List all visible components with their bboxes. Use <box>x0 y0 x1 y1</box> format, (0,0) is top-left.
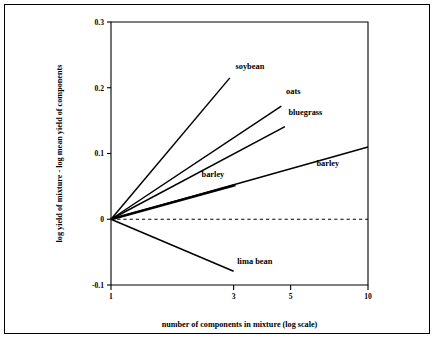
series-line-barley-long <box>111 147 368 219</box>
y-tick-label-1: 0 <box>100 215 104 224</box>
series-label-lima-bean: lima bean <box>237 257 272 266</box>
series-line-lima-bean <box>111 219 234 271</box>
series-label-soybean: soybean <box>235 62 264 71</box>
y-tick-label-2: 0.1 <box>95 149 105 158</box>
figure-container: -0.100.10.20.313510soybeanoatsbluegrassb… <box>0 0 434 338</box>
series-line-oats <box>111 106 281 219</box>
y-axis-title: log yield of mixture - log mean yield of… <box>55 65 64 243</box>
x-axis-title: number of components in mixture (log sca… <box>162 320 318 329</box>
series-line-bluegrass <box>111 127 285 220</box>
series-line-soybean <box>111 78 230 219</box>
y-tick-label-4: 0.3 <box>95 18 105 27</box>
series-label-barley-short: barley <box>202 170 226 179</box>
x-tick-label-0: 1 <box>109 292 113 301</box>
x-tick-label-1: 3 <box>232 292 236 301</box>
series-label-bluegrass: bluegrass <box>288 108 323 117</box>
x-tick-label-3: 10 <box>364 292 372 301</box>
series-label-oats: oats <box>286 87 301 96</box>
series-label-barley-long: barley <box>316 159 340 168</box>
y-tick-label-3: 0.2 <box>95 84 105 93</box>
x-tick-label-2: 5 <box>289 292 293 301</box>
y-tick-label-0: -0.1 <box>92 281 104 290</box>
chart-plot: -0.100.10.20.313510soybeanoatsbluegrassb… <box>0 0 434 338</box>
